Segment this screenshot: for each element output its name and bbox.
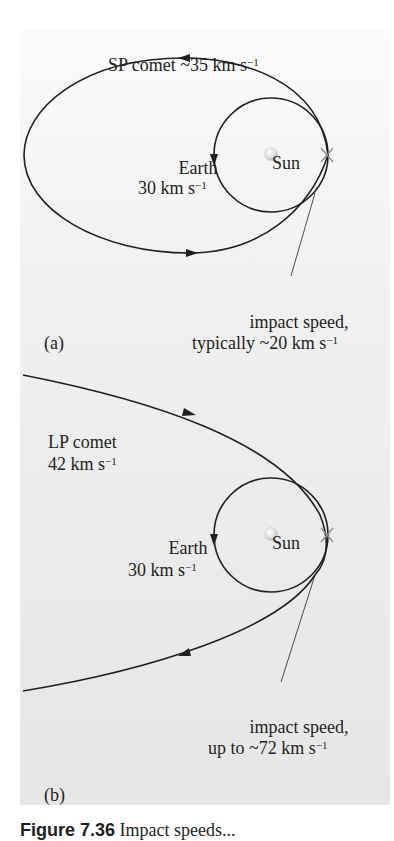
- earth-speed-label: 30 km s−1: [138, 178, 207, 198]
- arrow-right-icon: [186, 249, 198, 257]
- lp-comet-label: LP comet: [48, 432, 117, 452]
- lp-comet-speed-label: 42 km s−1: [48, 454, 117, 474]
- caption-label: Figure 7.36: [20, 820, 115, 840]
- figure-panel: SP comet ~35 km s−1 Sun Earth 30 km s−1 …: [20, 30, 390, 805]
- panel-tag-a: (a): [44, 333, 64, 353]
- figure-caption: Figure 7.36 Impact speeds...: [20, 820, 236, 841]
- sp-comet-label: SP comet ~35 km s−1: [108, 55, 259, 75]
- earth-speed-label: 30 km s−1: [128, 560, 197, 580]
- caption-text: Impact speeds...: [120, 820, 236, 840]
- panel-tag-b: (b): [44, 785, 65, 805]
- sun-label: Sun: [272, 153, 300, 173]
- leader-line: [281, 575, 315, 682]
- impact-label-line2: typically ~20 km s−1: [192, 333, 338, 353]
- arrow-right-icon: [182, 408, 196, 416]
- impact-label-line2: up to ~72 km s−1: [208, 738, 327, 758]
- impact-label-line1: impact speed,: [214, 717, 384, 737]
- arrow-left-icon: [178, 648, 191, 656]
- earth-label: Earth: [148, 538, 228, 558]
- leader-line: [291, 193, 315, 276]
- impact-label-line1: impact speed,: [214, 312, 384, 332]
- sun-label: Sun: [272, 533, 300, 553]
- earth-label: Earth: [158, 158, 238, 178]
